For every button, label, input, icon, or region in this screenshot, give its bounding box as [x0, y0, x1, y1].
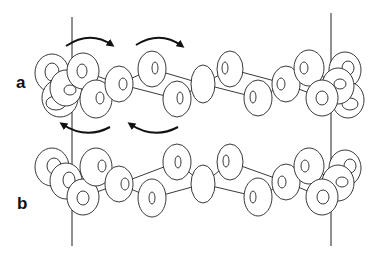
- ring-torus: [163, 144, 191, 180]
- rotation-arrow-icon: [130, 124, 178, 133]
- ring-hole: [223, 155, 229, 167]
- ring-hole: [98, 160, 106, 172]
- ring-outer: [217, 144, 243, 180]
- ring-hole: [334, 79, 346, 89]
- ring-torus: [138, 51, 166, 87]
- ring-torus: [191, 65, 215, 103]
- ring-hole: [152, 62, 158, 74]
- ring-hole: [300, 62, 308, 74]
- ring-torus: [105, 66, 133, 102]
- ring-hole: [119, 78, 127, 90]
- ring-torus: [244, 80, 272, 116]
- ring-hole: [316, 91, 328, 105]
- rotation-arrow-icon: [66, 38, 112, 46]
- ring-hole: [301, 160, 309, 172]
- ring-outer: [244, 80, 272, 116]
- rotation-arrow-icon: [62, 124, 110, 133]
- ring-torus: [163, 81, 191, 117]
- molecular-structure-diagram: [0, 0, 384, 258]
- ring-torus: [217, 144, 243, 180]
- ring-hole: [277, 78, 285, 90]
- ring-hole: [77, 191, 89, 205]
- ring-outer: [217, 51, 243, 87]
- axis-lines: [72, 13, 331, 246]
- ring-torus: [306, 80, 338, 116]
- ring-hole: [175, 156, 181, 168]
- ring-torus: [244, 178, 272, 216]
- rotation-arrow-icon: [136, 38, 182, 46]
- ring-hole: [177, 92, 183, 104]
- ring-hole: [317, 190, 329, 204]
- ring-hole: [336, 177, 348, 187]
- ring-torus: [138, 179, 166, 217]
- ring-outer: [191, 65, 215, 103]
- ring-torus: [191, 165, 215, 203]
- panel-label-b: b: [17, 195, 27, 212]
- ring-hole: [96, 92, 104, 104]
- ring-hole: [149, 192, 155, 204]
- ring-outer: [191, 165, 215, 203]
- panel-a-structure: [35, 38, 364, 133]
- ring-outer: [244, 178, 272, 216]
- ring-torus: [217, 51, 243, 87]
- ring-hole: [77, 64, 87, 78]
- ring-torus: [105, 166, 133, 202]
- panel-label-a: a: [16, 74, 25, 91]
- ring-torus: [294, 148, 324, 184]
- ring-hole: [278, 176, 286, 188]
- ring-hole: [250, 91, 256, 103]
- ring-hole: [121, 178, 129, 190]
- ring-hole: [250, 191, 256, 203]
- diagram-canvas: a b: [0, 0, 384, 258]
- ring-torus: [306, 179, 338, 215]
- panel-b-structure: [35, 144, 361, 217]
- ring-hole: [222, 62, 228, 74]
